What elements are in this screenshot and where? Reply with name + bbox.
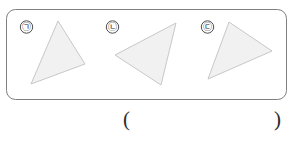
answer-row: ( ) — [0, 104, 294, 149]
svg-text:㉢: ㉢ — [203, 22, 212, 32]
label-nieun: ㉡ — [106, 21, 118, 33]
figure-canvas: ㉠ ㉡ ㉢ — [0, 0, 294, 104]
svg-text:㉠: ㉠ — [22, 22, 31, 32]
answer-close-paren: ) — [274, 104, 281, 134]
svg-text:㉡: ㉡ — [108, 22, 117, 32]
answer-blank[interactable] — [136, 108, 272, 132]
label-giyeok: ㉠ — [20, 21, 32, 33]
label-digeut: ㉢ — [201, 21, 213, 33]
figure-root: ㉠ ㉡ ㉢ ( ) — [0, 0, 294, 149]
answer-open-paren: ( — [123, 104, 130, 134]
